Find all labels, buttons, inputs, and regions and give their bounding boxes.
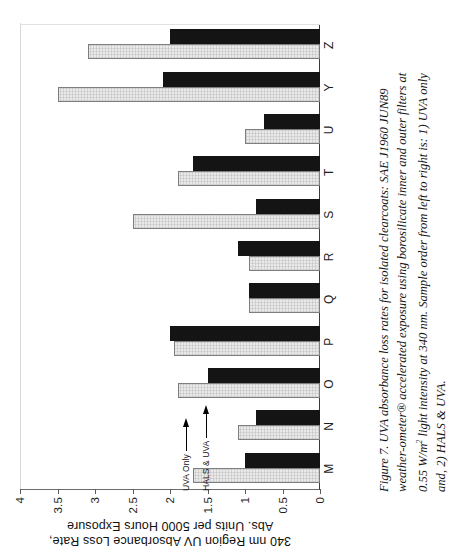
bar-group [20, 150, 320, 192]
bar-Z-uva-only [88, 44, 321, 59]
arrow-icon [203, 404, 210, 438]
category-label-Z: Z [322, 24, 336, 66]
annotation-hals-uva-label: HALS & UVA [201, 441, 211, 491]
bar-chart: 00.511.522.533.54 HALS & UVA UVA Only MN… [20, 24, 332, 490]
bar-Y-uva-only [58, 87, 321, 102]
category-label-Q: Q [322, 278, 336, 320]
bar-P-uva-only [174, 341, 320, 356]
caption-line-4: and, 2) HALS & UVA. [434, 380, 448, 492]
bar-group [20, 23, 320, 65]
bar-R-hals-uva [238, 241, 321, 256]
caption-line-2: weather-ometer® accelerated exposure usi… [395, 73, 409, 492]
category-label-R: R [322, 236, 336, 278]
bar-R-uva-only [249, 256, 320, 271]
bar-T-uva-only [178, 171, 321, 186]
annotation-uva-only: UVA Only [181, 417, 192, 491]
category-label-M: M [322, 448, 336, 490]
category-label-S: S [322, 193, 336, 235]
axis-tick [283, 489, 284, 494]
bar-group [20, 447, 320, 489]
bar-group [20, 277, 320, 319]
plot-area: 00.511.522.533.54 HALS & UVA UVA Only [20, 24, 320, 490]
bar-Y-hals-uva [163, 72, 321, 87]
bar-Q-uva-only [249, 298, 320, 313]
bar-N-uva-only [238, 425, 321, 440]
value-axis-title-line2: Abs. Units per 5000 Hours Exposure [20, 518, 320, 533]
axis-tick [58, 489, 59, 494]
bar-T-hals-uva [193, 156, 321, 171]
rotated-figure-wrapper: 00.511.522.533.54 HALS & UVA UVA Only MN… [0, 0, 360, 552]
category-label-N: N [322, 405, 336, 447]
bar-group [20, 320, 320, 362]
bar-group [20, 192, 320, 234]
bar-Q-hals-uva [249, 283, 320, 298]
bar-U-hals-uva [264, 114, 320, 129]
caption-line-3a: 0.55 W/m [416, 444, 430, 492]
value-axis-title-line1: 340 nm Region UV Absorbance Loss Rate, [20, 533, 320, 548]
category-label-Y: Y [322, 66, 336, 108]
arrow-icon [183, 417, 190, 451]
annotation-uva-only-label: UVA Only [181, 454, 191, 491]
bar-P-hals-uva [170, 326, 320, 341]
category-label-T: T [322, 151, 336, 193]
caption-line-3b: light intensity at 340 nm. Sample order … [416, 73, 430, 440]
bar-S-hals-uva [256, 199, 320, 214]
bar-M-hals-uva [245, 453, 320, 468]
caption-superscript: 2 [415, 440, 424, 444]
bar-groups [20, 23, 320, 489]
bar-group [20, 404, 320, 446]
annotation-hals-uva: HALS & UVA [201, 404, 212, 491]
axis-tick [320, 489, 321, 494]
bar-group [20, 108, 320, 150]
bar-N-hals-uva [256, 410, 320, 425]
category-label-O: O [322, 363, 336, 405]
axis-tick [95, 489, 96, 494]
caption-line-1: Figure 7. UVA absorbance loss rates for … [377, 88, 391, 492]
bar-S-uva-only [133, 214, 321, 229]
category-label-U: U [322, 109, 336, 151]
bar-group [20, 235, 320, 277]
figure-caption: Figure 7. UVA absorbance loss rates for … [376, 62, 451, 492]
bar-O-hals-uva [208, 368, 321, 383]
bar-Z-hals-uva [170, 29, 320, 44]
bar-group [20, 65, 320, 107]
bar-group [20, 362, 320, 404]
bar-U-uva-only [245, 129, 320, 144]
axis-tick [20, 489, 21, 494]
bar-O-uva-only [178, 383, 321, 398]
category-axis-labels: MNOPQRSTUYZ [322, 24, 336, 490]
axis-tick [170, 489, 171, 494]
category-label-P: P [322, 321, 336, 363]
value-axis-title: 340 nm Region UV Absorbance Loss Rate, A… [20, 518, 320, 548]
axis-tick [245, 489, 246, 494]
axis-tick [133, 489, 134, 494]
bar-M-uva-only [193, 468, 321, 483]
